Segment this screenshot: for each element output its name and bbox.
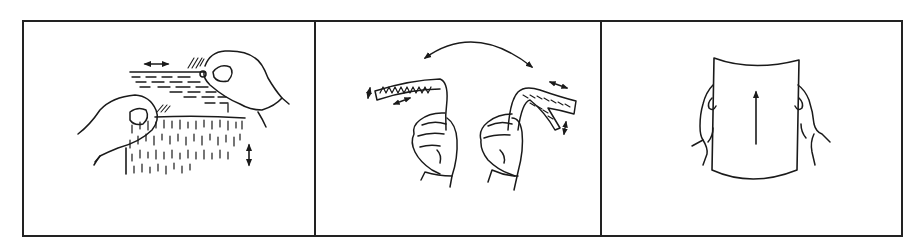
right-hand-icon — [795, 85, 830, 165]
left-hand-icon — [412, 113, 457, 187]
panel-3 — [692, 58, 830, 179]
curved-paper-stack-icon — [508, 82, 576, 134]
paper-stack-icon — [126, 58, 245, 174]
right-hand-icon — [200, 51, 289, 127]
panel-2 — [368, 42, 576, 190]
right-hand-icon — [480, 114, 522, 190]
left-hand-icon — [78, 95, 157, 165]
three-panel-diagram — [0, 0, 913, 245]
diagram-frame — [23, 21, 902, 236]
panel-1 — [78, 51, 289, 174]
curved-double-arrow-icon — [425, 42, 532, 67]
